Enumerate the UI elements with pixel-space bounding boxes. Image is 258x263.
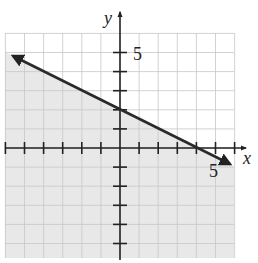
coordinate-graph: y x 5 5 <box>0 0 258 263</box>
y-tick-label-5: 5 <box>133 44 142 64</box>
x-tick-label-5: 5 <box>209 161 218 181</box>
y-axis-label: y <box>102 8 112 28</box>
x-axis-label: x <box>242 148 251 168</box>
